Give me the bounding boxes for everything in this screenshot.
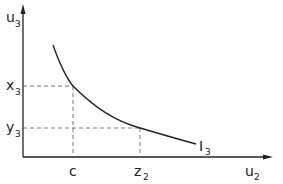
- y-axis-label-sub: 3: [15, 19, 21, 29]
- curve-label-sub: 3: [205, 147, 211, 157]
- y-tick-y3: y: [6, 119, 14, 135]
- indifference-curve-diagram: u 3 x 3 y 3 c z 2 I 3 u 2: [0, 0, 283, 184]
- y-tick-x3: x: [6, 77, 14, 93]
- y-axis-label: u: [6, 9, 15, 25]
- x-tick-c: c: [69, 163, 77, 179]
- x-tick-z2-sub: 2: [143, 172, 149, 182]
- x-tick-z2: z: [134, 163, 141, 179]
- curve-label: I: [199, 138, 203, 154]
- x-axis-label-sub: 2: [254, 172, 260, 182]
- x-axis-label: u: [245, 163, 254, 179]
- indifference-curve-i3: [53, 45, 196, 144]
- y-axis-arrow-icon: [21, 4, 26, 14]
- y-tick-y3-sub: 3: [15, 129, 21, 139]
- x-axis-arrow-icon: [263, 155, 273, 160]
- y-tick-x3-sub: 3: [15, 87, 21, 97]
